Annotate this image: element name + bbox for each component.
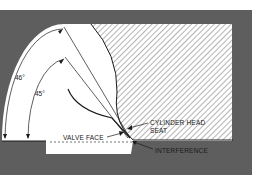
valve-body — [46, 141, 133, 154]
cylinder-head-label: CYLINDER HEAD — [150, 119, 205, 126]
seat-label: SEAT — [150, 127, 167, 134]
angle-label-45: 45° — [35, 90, 45, 97]
angle-label-46: 46° — [15, 74, 25, 81]
valve-interference-angle-diagram: 46° 45° CYLINDER HEAD SEAT VALVE FACE IN… — [0, 0, 267, 185]
valve-face-label: VALVE FACE — [63, 134, 104, 141]
interference-label: INTERFERENCE — [155, 147, 208, 154]
